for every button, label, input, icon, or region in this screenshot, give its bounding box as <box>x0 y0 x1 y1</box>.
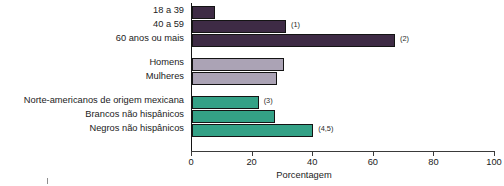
bar-chart: 18 a 3940 a 5960 anos ou maisHomensMulhe… <box>0 0 504 186</box>
category-label: Brancos não hispânicos <box>85 109 184 119</box>
bar <box>192 6 215 19</box>
category-label: Negros não hispânicos <box>89 123 184 133</box>
footnote-marker: (1) <box>291 21 300 29</box>
x-axis-tick <box>433 152 434 156</box>
x-axis-tick <box>312 152 313 156</box>
category-label-column: 18 a 3940 a 5960 anos ou maisHomensMulhe… <box>0 0 188 155</box>
x-axis-tick <box>252 152 253 156</box>
plot-area: (1)(2)(3)(4,5) <box>192 3 495 151</box>
x-axis-tick <box>191 152 192 156</box>
x-axis-tick <box>373 152 374 156</box>
x-axis-tick-label: 80 <box>428 157 438 167</box>
x-axis-tick-label: 60 <box>368 157 378 167</box>
x-axis-title-label: Porcentagem <box>276 170 331 180</box>
category-label: 60 anos ou mais <box>116 33 184 43</box>
y-axis-line <box>191 3 192 151</box>
footnote-marker: (2) <box>400 35 409 43</box>
x-axis-title: Porcentagem <box>0 170 504 180</box>
x-axis-tick-label: 40 <box>307 157 317 167</box>
category-label: Norte-americanos de origem mexicana <box>24 95 184 105</box>
scan-artifact-mark <box>47 178 48 184</box>
bar <box>192 124 313 137</box>
category-label: Mulheres <box>146 71 184 81</box>
bar <box>192 110 275 123</box>
footnote-marker: (4,5) <box>318 125 333 133</box>
x-axis-tick-label: 20 <box>246 157 256 167</box>
x-axis-tick-label: 0 <box>188 157 193 167</box>
bar <box>192 58 284 71</box>
bar <box>192 34 395 47</box>
category-label: Homens <box>149 57 184 67</box>
category-label: 40 a 59 <box>153 19 184 29</box>
x-axis-tick-label: 100 <box>486 157 502 167</box>
footnote-marker: (3) <box>264 97 273 105</box>
bar <box>192 20 286 33</box>
category-label: 18 a 39 <box>153 5 184 15</box>
x-axis-line <box>191 151 495 152</box>
bar <box>192 72 277 85</box>
x-axis-tick <box>494 152 495 156</box>
bar <box>192 96 259 109</box>
